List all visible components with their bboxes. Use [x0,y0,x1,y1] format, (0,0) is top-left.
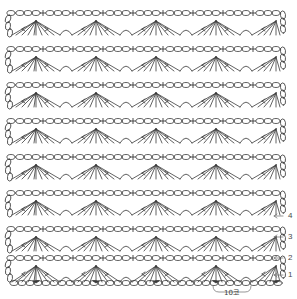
chain-mesh-run [16,190,280,195]
edge-chain [280,47,286,70]
foundation-chain-row [10,281,282,286]
chain-mesh-run [16,46,280,51]
turning-chain [4,227,15,254]
fan-cluster [192,165,240,179]
turning-chain [4,47,15,74]
fan-cluster [132,21,180,35]
fan-cluster [132,201,180,215]
fan-cluster-edge [252,237,280,251]
turning-chain [4,11,15,38]
fan-cluster [132,165,180,179]
fan-cluster [132,237,180,251]
fan-cluster-edge [252,129,280,143]
edge-chain [280,191,286,214]
fan-cluster-edge [252,165,280,179]
fan-cluster [192,237,240,251]
diagram-ink [4,10,286,292]
fan-cluster [192,129,240,143]
pattern-band-bottom [4,255,286,283]
fan-cluster [12,93,60,107]
fan-cluster-edge [252,21,280,35]
chain-mesh-run [16,82,280,87]
fan-cluster [132,57,180,71]
chain-mesh-run [16,154,280,159]
edge-chain [280,227,286,250]
pattern-band [4,226,286,253]
pattern-band [4,154,286,181]
turning-chain [4,191,15,218]
fan-cluster [12,165,60,179]
fan-cluster [72,201,120,215]
fan-cluster [12,57,60,71]
fan-cluster [132,93,180,107]
edge-chain [280,11,286,34]
pattern-band [4,46,286,73]
fan-cluster [72,57,120,71]
fan-cluster [132,129,180,143]
turning-chain [4,155,15,182]
pattern-band [4,190,286,217]
fan-cluster [12,201,60,215]
fan-cluster [12,237,60,251]
crochet-stitch-chart: 4 3 2 1 10코 [0,0,297,299]
fan-cluster [192,21,240,35]
fan-cluster [72,21,120,35]
pattern-band [4,118,286,145]
fan-cluster [72,93,120,107]
fan-cluster [192,93,240,107]
fan-cluster [12,21,60,35]
fan-cluster-edge [252,201,280,215]
fan-cluster [72,165,120,179]
repeat-bracket [213,286,251,292]
turning-chain [4,83,15,110]
fan-cluster [12,129,60,143]
stitch-diagram-canvas [0,0,297,299]
fan-cluster [72,129,120,143]
chain-mesh-run [16,10,280,15]
fan-cluster [192,201,240,215]
turning-chain [4,256,15,283]
fan-cluster-edge [252,57,280,71]
chain-mesh-run [16,255,280,260]
edge-chain [280,83,286,106]
pattern-band [4,10,286,37]
pattern-band [4,82,286,109]
edge-chain [280,119,286,142]
turning-chain [4,119,15,146]
fan-cluster-edge [252,93,280,107]
fan-cluster [192,57,240,71]
chain-mesh-run [16,118,280,123]
edge-chain [280,155,286,178]
chain-mesh-run [16,226,280,231]
fan-cluster [72,237,120,251]
